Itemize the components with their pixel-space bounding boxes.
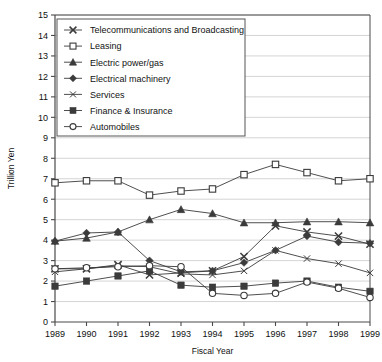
y-tick-label: 0 bbox=[43, 317, 48, 327]
data-point-marker bbox=[209, 290, 215, 296]
data-point-marker bbox=[272, 161, 278, 167]
x-tick-label: 1998 bbox=[328, 329, 348, 339]
x-tick-label: 1993 bbox=[171, 329, 191, 339]
y-tick-label: 3 bbox=[43, 256, 48, 266]
x-axis-title: Fiscal Year bbox=[192, 346, 234, 356]
data-point-marker bbox=[335, 178, 341, 184]
data-point-marker bbox=[304, 169, 310, 175]
data-point-marker bbox=[241, 171, 247, 177]
y-tick-label: 4 bbox=[43, 235, 48, 245]
legend-item-0[interactable]: Telecommunications and Broadcasting bbox=[64, 25, 244, 35]
line-chart: 0123456789101112131415 19891990199119921… bbox=[0, 0, 382, 362]
x-tick-label: 1994 bbox=[202, 329, 222, 339]
y-tick-label: 13 bbox=[38, 51, 48, 61]
chart-legend: Telecommunications and BroadcastingLeasi… bbox=[57, 19, 245, 136]
data-point-marker bbox=[367, 176, 373, 182]
data-point-marker bbox=[178, 264, 184, 270]
data-point-marker bbox=[52, 283, 58, 289]
y-tick-label: 7 bbox=[43, 174, 48, 184]
data-point-marker bbox=[367, 294, 373, 300]
x-tick-label: 1990 bbox=[76, 329, 96, 339]
legend-label: Leasing bbox=[90, 41, 122, 51]
y-tick-label: 10 bbox=[38, 113, 48, 123]
data-point-marker bbox=[146, 192, 152, 198]
data-point-marker bbox=[178, 282, 184, 288]
y-tick-label: 9 bbox=[43, 133, 48, 143]
x-tick-label: 1996 bbox=[265, 329, 285, 339]
y-tick-label: 8 bbox=[43, 154, 48, 164]
legend-label: Automobiles bbox=[90, 122, 140, 132]
legend-label: Telecommunications and Broadcasting bbox=[90, 25, 244, 35]
x-tick-label: 1992 bbox=[139, 329, 159, 339]
x-tick-label: 1995 bbox=[234, 329, 254, 339]
data-point-marker bbox=[70, 108, 76, 114]
data-point-marker bbox=[272, 290, 278, 296]
y-axis-title: Trillion Yen bbox=[6, 148, 16, 190]
legend-label: Electrical machinery bbox=[90, 74, 171, 84]
data-point-marker bbox=[272, 280, 278, 286]
x-tick-label: 1989 bbox=[45, 329, 65, 339]
y-tick-label: 6 bbox=[43, 195, 48, 205]
chart-canvas: 0123456789101112131415 19891990199119921… bbox=[0, 0, 382, 362]
data-point-marker bbox=[367, 288, 373, 294]
data-point-marker bbox=[241, 292, 247, 298]
y-tick-label: 11 bbox=[39, 92, 48, 102]
y-tick-label: 5 bbox=[43, 215, 48, 225]
data-point-marker bbox=[70, 124, 76, 130]
legend-label: Finance & Insurance bbox=[90, 106, 173, 116]
data-point-marker bbox=[241, 283, 247, 289]
data-point-marker bbox=[304, 279, 310, 285]
y-tick-label: 12 bbox=[38, 72, 48, 82]
data-point-marker bbox=[52, 266, 58, 272]
data-point-marker bbox=[115, 178, 121, 184]
y-tick-label: 14 bbox=[38, 31, 48, 41]
y-tick-label: 1 bbox=[43, 297, 48, 307]
data-point-marker bbox=[115, 264, 121, 270]
data-point-marker bbox=[83, 265, 89, 271]
data-point-marker bbox=[70, 43, 76, 49]
data-point-marker bbox=[209, 186, 215, 192]
data-point-marker bbox=[335, 285, 341, 291]
legend-label: Electric power/gas bbox=[90, 58, 164, 68]
data-point-marker bbox=[146, 263, 152, 269]
data-point-marker bbox=[83, 278, 89, 284]
data-point-marker bbox=[209, 284, 215, 290]
x-tick-label: 1991 bbox=[108, 329, 128, 339]
legend-label: Services bbox=[90, 90, 125, 100]
x-tick-label: 1997 bbox=[297, 329, 317, 339]
data-point-marker bbox=[178, 188, 184, 194]
y-tick-label: 2 bbox=[43, 276, 48, 286]
x-tick-label: 1999 bbox=[360, 329, 380, 339]
data-point-marker bbox=[83, 178, 89, 184]
y-tick-label: 15 bbox=[38, 10, 48, 20]
data-point-marker bbox=[115, 273, 121, 279]
data-point-marker bbox=[52, 180, 58, 186]
